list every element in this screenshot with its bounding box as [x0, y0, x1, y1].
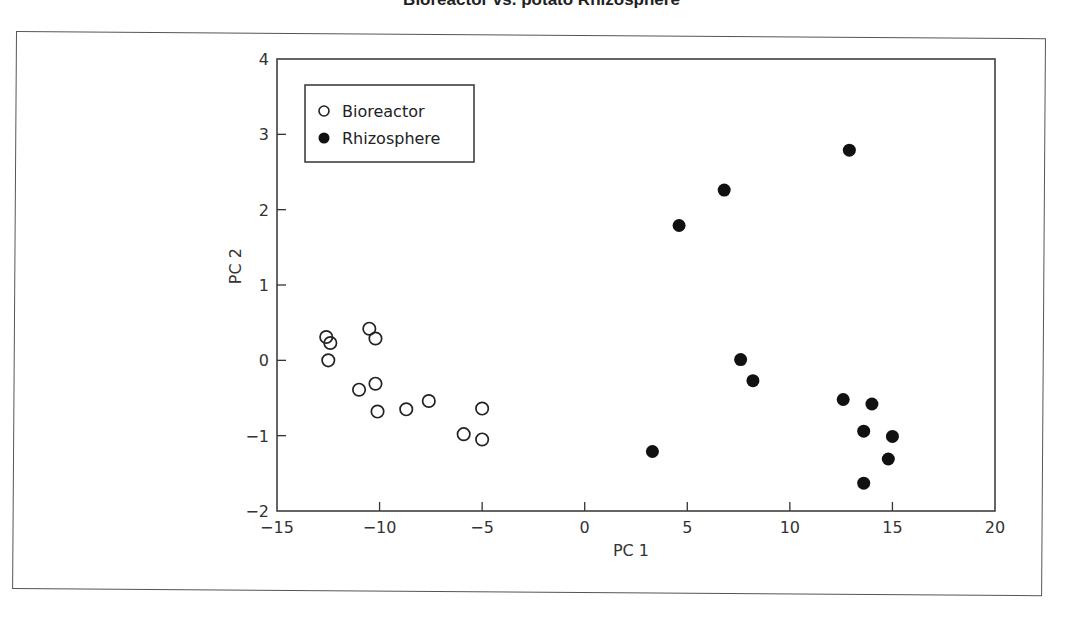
legend-label-rhizosphere: Rhizosphere [342, 129, 440, 148]
bioreactor-point [353, 384, 365, 396]
y-tick-label: −1 [245, 427, 269, 446]
x-tick-label: 5 [682, 518, 692, 537]
x-axis-label: PC 1 [613, 541, 649, 560]
bioreactor-point [369, 332, 381, 344]
x-tick-label: 15 [882, 518, 902, 537]
x-tick-label: −5 [470, 518, 494, 537]
rhizosphere-point [646, 445, 659, 458]
y-axis-label: PC 2 [226, 248, 245, 284]
rhizosphere-point [718, 184, 731, 197]
x-tick-label: 0 [580, 518, 590, 537]
bioreactor-point [476, 433, 488, 445]
rhizosphere-point [857, 477, 870, 490]
y-tick-label: −2 [245, 502, 269, 521]
filled-circle-icon [319, 133, 330, 144]
rhizosphere-point [746, 374, 759, 387]
rhizosphere-point [673, 219, 686, 232]
y-tick-label: 0 [259, 351, 269, 370]
rhizosphere-point [882, 453, 895, 466]
bioreactor-point [322, 354, 334, 366]
rhizosphere-point [843, 144, 856, 157]
y-tick-label: 4 [259, 50, 269, 69]
x-tick-label: 10 [780, 518, 800, 537]
bioreactor-point [400, 403, 412, 415]
x-tick-label: −10 [363, 518, 397, 537]
rhizosphere-point [734, 353, 747, 366]
rhizosphere-point [865, 398, 878, 411]
rhizosphere-point [837, 393, 850, 406]
y-tick-label: 2 [259, 201, 269, 220]
rhizosphere-point [886, 430, 899, 443]
legend: Bioreactor Rhizosphere [305, 85, 474, 162]
scatter-plot: −15−10−505101520−2−101234PC 1PC 2 Biorea… [0, 0, 1083, 617]
legend-label-bioreactor: Bioreactor [342, 102, 425, 121]
y-tick-label: 3 [259, 125, 269, 144]
bioreactor-point [371, 405, 383, 417]
rhizosphere-point [857, 425, 870, 438]
y-tick-label: 1 [259, 276, 269, 295]
bioreactor-point [369, 377, 381, 389]
x-tick-label: 20 [985, 518, 1005, 537]
bioreactor-point [476, 402, 488, 414]
bioreactor-point [423, 395, 435, 407]
data-points [320, 144, 899, 490]
bioreactor-point [457, 428, 469, 440]
legend-box [305, 85, 474, 162]
